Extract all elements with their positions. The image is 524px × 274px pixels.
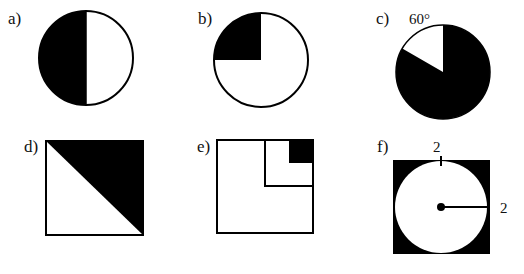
label-b: b) bbox=[198, 9, 212, 28]
label-d: d) bbox=[24, 137, 38, 156]
figure-c: c) 60° bbox=[376, 9, 490, 119]
label-f: f) bbox=[377, 137, 388, 156]
figure-e: e) bbox=[197, 137, 313, 233]
figure-b: b) bbox=[198, 9, 308, 107]
figure-grid: a) b) c) 60° d) e) f) 2 2 bbox=[0, 0, 524, 274]
shaded-small-square bbox=[289, 140, 313, 163]
shaded-triangle bbox=[46, 141, 143, 235]
diameter-annotation: 2 bbox=[433, 139, 441, 155]
label-a: a) bbox=[8, 9, 21, 28]
figure-f: f) 2 2 bbox=[377, 137, 508, 254]
angle-annotation: 60° bbox=[409, 11, 430, 27]
label-c: c) bbox=[376, 9, 389, 28]
figure-d: d) bbox=[24, 137, 143, 235]
shaded-half bbox=[39, 11, 86, 105]
radius-annotation: 2 bbox=[500, 200, 508, 216]
label-e: e) bbox=[197, 137, 210, 156]
figure-a: a) bbox=[8, 9, 133, 105]
